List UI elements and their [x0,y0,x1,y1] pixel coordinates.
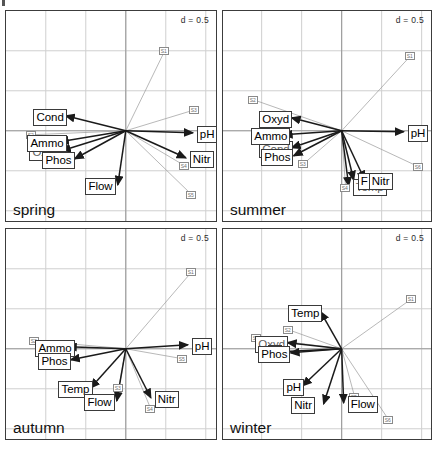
panel-spring: d = 0.5 spring S1S2S3S4S5CondAmmoOxydPho… [5,10,217,222]
scale-annotation-winter: d = 0.5 [396,233,424,243]
variable-label-phos: Phos [38,353,70,370]
site-point-label: S6 [383,416,393,424]
variable-label-phos: Phos [261,149,293,166]
site-point-label: S2 [248,96,258,104]
scale-annotation-spring: d = 0.5 [181,15,209,25]
panel-winter: d = 0.5 winter S1S2S3S5S6TempOxydAPhospH… [222,228,432,440]
variable-label-ph: pH [283,379,304,396]
variable-label-temp: Temp [288,305,322,322]
variable-label-ph: pH [408,125,429,142]
variable-label-flow: Flow [84,394,114,411]
panel-autumn: d = 0.5 autumn S1S2S3S4S5AmmoPhosTempFlo… [5,228,217,440]
site-point-label: S1 [186,268,196,276]
site-point-label: S5 [186,191,196,199]
panel-title-winter: winter [230,419,271,437]
site-point-label: S1 [406,295,416,303]
site-point-label: S3 [298,160,308,168]
variable-label-ammo: Ammo [27,135,66,152]
variable-label-nitr: Nitr [155,391,179,408]
variable-label-nitr: Nitr [369,173,393,190]
variable-label-phos: Phos [42,152,74,169]
site-point-label: S4 [179,162,189,170]
site-point-label: S1 [405,52,415,60]
variable-label-cond: Cond [33,109,67,126]
site-point-label: S4 [340,184,350,192]
site-point-label: S1 [159,47,169,55]
variable-label-flow: Flow [348,396,378,413]
variable-label-phos: Phos [258,346,290,363]
variable-label-ammo: Ammo [251,128,290,145]
scale-annotation-autumn: d = 0.5 [181,233,209,243]
corner-artifact [2,0,5,6]
scale-annotation-summer: d = 0.5 [396,15,424,25]
panel-summer: d = 0.5 summer S1S2S3S4S6OxydAmmoCondPho… [222,10,432,222]
panel-title-autumn: autumn [13,419,65,437]
panel-title-spring: spring [13,201,55,219]
site-point-label: S2 [283,326,293,334]
variable-label-ph: pH [197,126,217,143]
variable-label-oxyd: Oxyd [259,111,292,128]
site-point-label: S5 [177,355,187,363]
site-point-label: S3 [113,384,123,392]
site-point-label: S4 [145,405,155,413]
variable-label-ph: pH [192,338,213,355]
site-point-label: S3 [189,106,199,114]
variable-label-flow: Flow [85,178,115,195]
variable-label-nitr: Nitr [190,151,214,168]
figure-canvas: d = 0.5 spring S1S2S3S4S5CondAmmoOxydPho… [0,0,437,452]
site-point-label: S6 [413,163,423,171]
panel-title-summer: summer [230,201,286,219]
variable-label-nitr: Nitr [291,397,315,414]
panel-summer-plot [223,11,432,222]
